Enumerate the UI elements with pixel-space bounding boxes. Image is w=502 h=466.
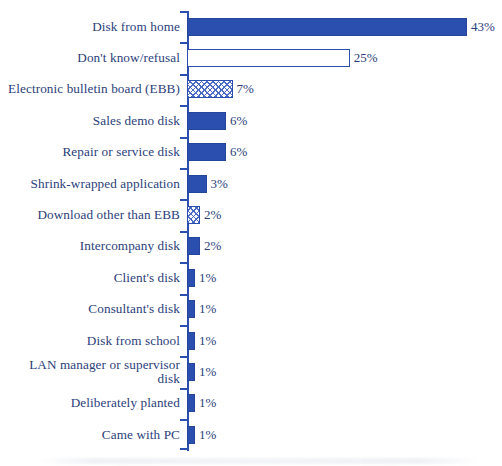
bar bbox=[187, 237, 200, 255]
bar-area: 1% bbox=[187, 262, 502, 293]
chart-row: Don't know/refusal25% bbox=[0, 42, 502, 73]
bar-value-label: 43% bbox=[467, 19, 495, 35]
bar-area: 3% bbox=[187, 168, 502, 199]
bar-area: 25% bbox=[187, 42, 502, 73]
bar-value-label: 3% bbox=[207, 176, 228, 192]
bar-value-label: 1% bbox=[195, 333, 216, 349]
chart-row: Consultant's disk1% bbox=[0, 294, 502, 325]
bar-value-label: 1% bbox=[195, 364, 216, 380]
chart-row: Download other than EBB2% bbox=[0, 199, 502, 230]
bar-area: 1% bbox=[187, 325, 502, 356]
bar-area: 1% bbox=[187, 356, 502, 387]
bar bbox=[187, 80, 233, 98]
bar-area: 2% bbox=[187, 231, 502, 262]
chart-row: Came with PC1% bbox=[0, 419, 502, 450]
bar-area: 1% bbox=[187, 419, 502, 450]
chart-row: Disk from school1% bbox=[0, 325, 502, 356]
category-label: Sales demo disk bbox=[0, 114, 187, 128]
category-label: Download other than EBB bbox=[0, 208, 187, 222]
bar-value-label: 2% bbox=[200, 207, 221, 223]
bar bbox=[187, 363, 195, 381]
bar bbox=[187, 426, 195, 444]
category-label: Shrink-wrapped application bbox=[0, 177, 187, 191]
category-label: Came with PC bbox=[0, 428, 187, 442]
chart-row: Sales demo disk6% bbox=[0, 105, 502, 136]
chart-row: Deliberately planted1% bbox=[0, 388, 502, 419]
bar bbox=[187, 300, 195, 318]
bar-value-label: 1% bbox=[195, 270, 216, 286]
bar-value-label: 1% bbox=[195, 301, 216, 317]
bar bbox=[187, 394, 195, 412]
bar-value-label: 6% bbox=[226, 144, 247, 160]
bar bbox=[187, 49, 350, 67]
bar bbox=[187, 112, 226, 130]
chart-row: Client's disk1% bbox=[0, 262, 502, 293]
category-label: Disk from school bbox=[0, 334, 187, 348]
chart-row: Repair or service disk6% bbox=[0, 137, 502, 168]
scan-bleed-artifact bbox=[40, 458, 480, 464]
category-label: Disk from home bbox=[0, 20, 187, 34]
bar-value-label: 25% bbox=[350, 50, 378, 66]
chart-row: LAN manager or supervisor disk1% bbox=[0, 356, 502, 387]
bar-area: 7% bbox=[187, 74, 502, 105]
bar-area: 1% bbox=[187, 294, 502, 325]
bar-value-label: 2% bbox=[200, 238, 221, 254]
category-label: Client's disk bbox=[0, 271, 187, 285]
bar-area: 43% bbox=[187, 11, 502, 42]
bar bbox=[187, 143, 226, 161]
bar-area: 6% bbox=[187, 105, 502, 136]
category-label: Electronic bulletin board (EBB) bbox=[0, 82, 187, 96]
chart-row: Electronic bulletin board (EBB)7% bbox=[0, 74, 502, 105]
category-label: Repair or service disk bbox=[0, 145, 187, 159]
bar bbox=[187, 175, 207, 193]
bar-value-label: 7% bbox=[233, 81, 254, 97]
bar-area: 1% bbox=[187, 388, 502, 419]
bar-value-label: 6% bbox=[226, 113, 247, 129]
bar bbox=[187, 332, 195, 350]
bar-value-label: 1% bbox=[195, 395, 216, 411]
bar bbox=[187, 18, 467, 36]
category-label: Consultant's disk bbox=[0, 302, 187, 316]
category-label: Deliberately planted bbox=[0, 396, 187, 410]
bar-area: 6% bbox=[187, 137, 502, 168]
bar-area: 2% bbox=[187, 199, 502, 230]
horizontal-bar-chart: Disk from home43%Don't know/refusal25%El… bbox=[0, 0, 502, 466]
category-label: Don't know/refusal bbox=[0, 51, 187, 65]
chart-row: Intercompany disk2% bbox=[0, 231, 502, 262]
bar bbox=[187, 206, 200, 224]
category-label: LAN manager or supervisor disk bbox=[0, 358, 187, 386]
chart-row: Shrink-wrapped application3% bbox=[0, 168, 502, 199]
bar bbox=[187, 269, 195, 287]
category-label: Intercompany disk bbox=[0, 239, 187, 253]
bar-value-label: 1% bbox=[195, 427, 216, 443]
chart-row: Disk from home43% bbox=[0, 11, 502, 42]
